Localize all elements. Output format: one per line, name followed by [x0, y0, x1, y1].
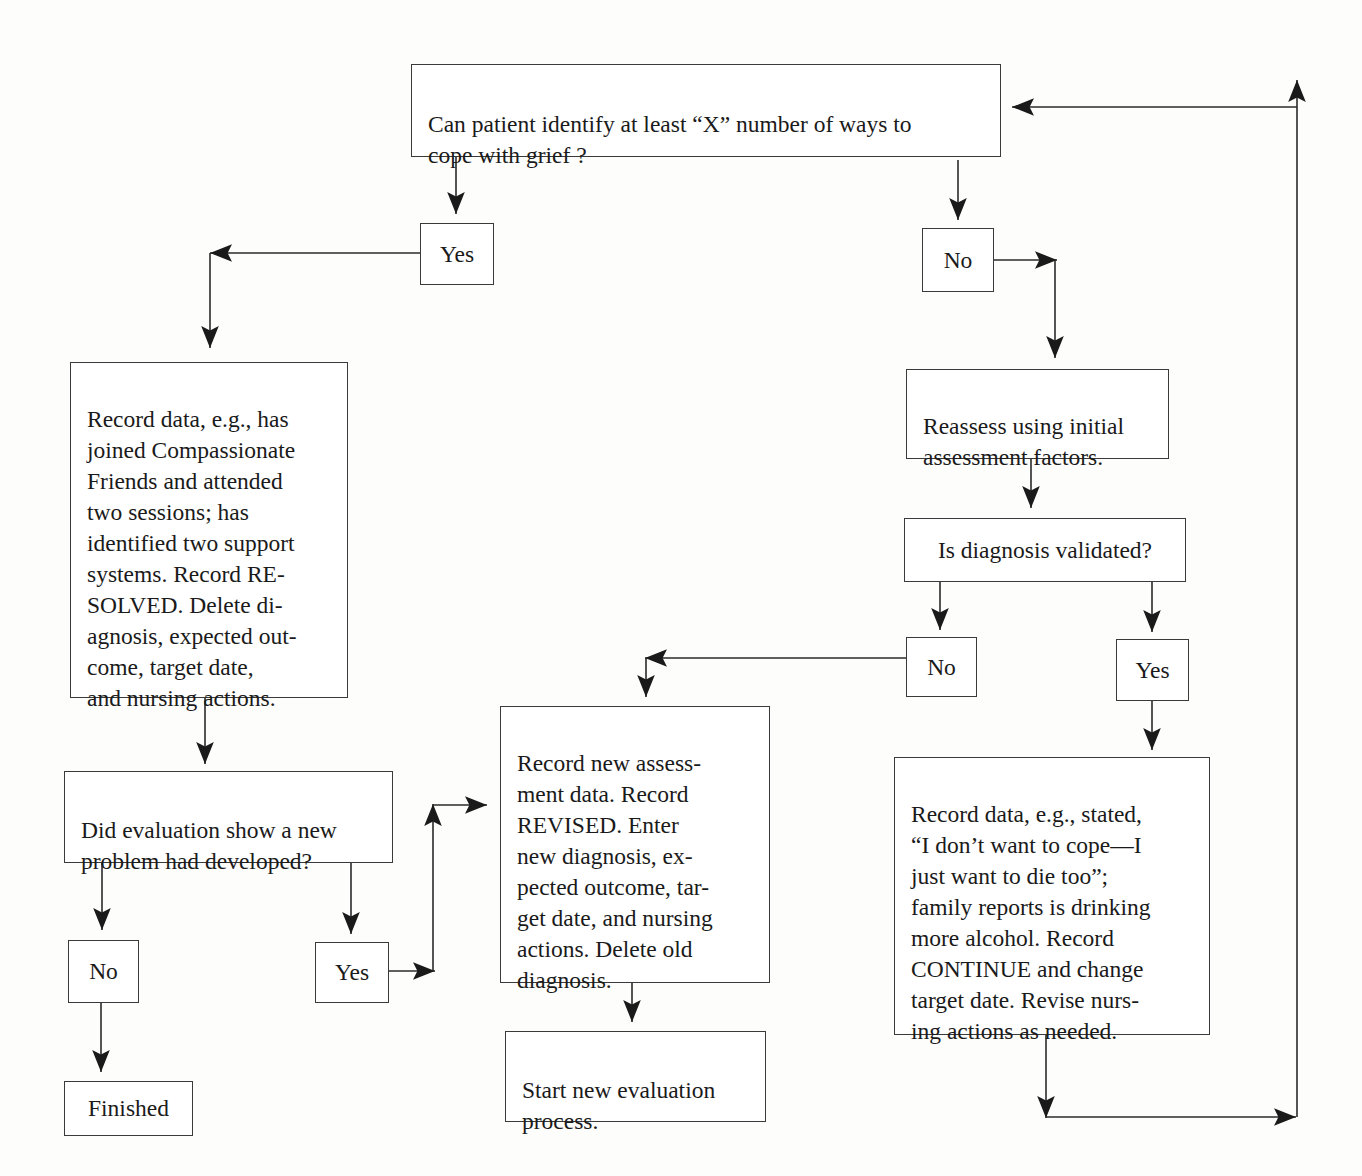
node-text: Yes [335, 957, 369, 988]
node-text: Record data, e.g., stated, “I don’t want… [911, 799, 1193, 1047]
node-record-continue: Record data, e.g., stated, “I don’t want… [894, 757, 1210, 1035]
node-text: No [944, 245, 973, 276]
node-text: Start new evaluation process. [522, 1075, 749, 1137]
node-text: Yes [440, 239, 474, 270]
node-yes-3: Yes [315, 942, 389, 1003]
node-record-resolved: Record data, e.g., has joined Compassion… [70, 362, 348, 698]
node-start-new-evaluation: Start new evaluation process. [505, 1031, 766, 1122]
node-text: No [927, 652, 956, 683]
node-no-2: No [906, 637, 977, 697]
node-text: Reassess using initial assessment factor… [923, 411, 1152, 473]
node-yes-1: Yes [420, 223, 494, 285]
node-text: Record new assess- ment data. Record REV… [517, 748, 753, 996]
node-no-3: No [68, 940, 139, 1003]
node-can-patient-cope: Can patient identify at least “X” number… [411, 64, 1001, 157]
node-text: Can patient identify at least “X” number… [428, 109, 984, 171]
node-text: Did evaluation show a new problem had de… [81, 815, 376, 877]
node-text: No [89, 956, 118, 987]
flowchart-canvas: Can patient identify at least “X” number… [0, 0, 1362, 1176]
node-text: Yes [1135, 655, 1169, 686]
node-record-revised: Record new assess- ment data. Record REV… [500, 706, 770, 983]
node-text: Record data, e.g., has joined Compassion… [87, 404, 331, 714]
node-text: Finished [88, 1093, 169, 1124]
node-no-1: No [922, 228, 994, 292]
node-new-problem-question: Did evaluation show a new problem had de… [64, 771, 393, 863]
node-text: Is diagnosis validated? [938, 535, 1152, 566]
node-finished: Finished [64, 1081, 193, 1136]
node-is-diagnosis-validated: Is diagnosis validated? [904, 518, 1186, 582]
node-yes-2: Yes [1116, 639, 1189, 701]
node-reassess: Reassess using initial assessment factor… [906, 369, 1169, 459]
